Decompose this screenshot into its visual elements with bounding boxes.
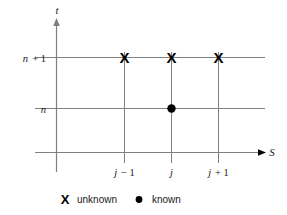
y-axis-label: t (55, 4, 59, 16)
horizontal-grid-lines (35, 58, 266, 156)
unknown-marker-j-plus-1: X (213, 49, 223, 66)
y-tick-label-n: n (41, 104, 46, 115)
y-axis-arrowhead (53, 18, 60, 26)
y-tick-n-plus-1-suffix: + 1 (32, 53, 46, 64)
x-tick-label-j: j (168, 167, 173, 178)
x-tick-j-plus-1-var: j (206, 167, 211, 178)
x-axis-arrowhead (258, 149, 266, 156)
x-tick-label-j-minus-1: j − 1 (112, 167, 134, 178)
legend-known-symbol (136, 196, 143, 203)
x-tick-j-minus-1-var: j (112, 167, 117, 178)
vertical-grid-lines (53, 18, 218, 172)
unknown-marker-j-minus-1: X (119, 49, 129, 66)
legend-known-label: known (152, 194, 181, 205)
y-tick-n-var: n (41, 104, 46, 115)
x-tick-j-plus-1-suffix: + 1 (215, 167, 229, 178)
stencil-diagram: t S n + 1 n j − 1 j j + 1 X X X (0, 0, 287, 215)
y-tick-n-plus-1-var: n (23, 53, 28, 64)
known-markers (167, 104, 175, 112)
y-tick-label-n-plus-1: n + 1 (23, 53, 46, 64)
x-axis-label: S (269, 146, 275, 158)
x-tick-label-j-plus-1: j + 1 (206, 167, 228, 178)
legend-unknown-symbol: X (61, 192, 70, 207)
known-marker-j (167, 104, 175, 112)
x-tick-j-var: j (168, 167, 173, 178)
x-tick-j-minus-1-suffix: − 1 (121, 167, 135, 178)
unknown-marker-j: X (166, 49, 176, 66)
legend: X unknown known (61, 192, 181, 207)
legend-unknown-label: unknown (77, 194, 117, 205)
